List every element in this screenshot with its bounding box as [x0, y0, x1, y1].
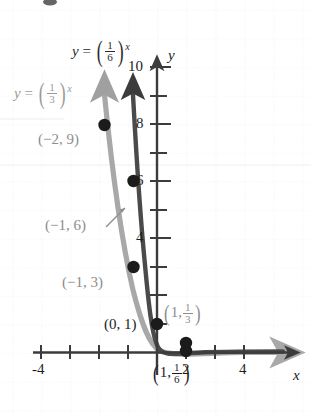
point-label-neg2-9: (−2, 9)	[38, 132, 79, 147]
eq-dark-exponent: x	[125, 41, 130, 52]
pt-1third-fraction: 13	[183, 302, 193, 326]
eq-dark-paren-open: (	[96, 38, 102, 67]
pt-1third-paren-close: )	[195, 302, 201, 325]
eq-dark-paren-close: )	[117, 38, 123, 67]
graph-canvas	[0, 0, 311, 416]
exponential-graph-figure: y = (16)x y = (13)x y x 10 8 6 4 -4 2 4 …	[0, 0, 311, 416]
pt-1sixth-paren-open: (	[153, 362, 159, 385]
pt-1third-paren-open: (	[164, 302, 170, 325]
point-0-1	[151, 318, 163, 330]
eq-dark-fraction: 16	[105, 40, 115, 64]
y-tick-label-8: 8	[136, 116, 144, 131]
point-label-0-1: (0, 1)	[104, 317, 137, 332]
point-label-neg1-3-text: −1, 3	[67, 274, 98, 290]
equation-label-one-sixth: y = (16)x	[72, 38, 130, 67]
x-tick-label-minus-4: -4	[32, 362, 45, 377]
point-label-1-one-third: ((1,1,13)	[163, 302, 201, 326]
eq-dark-equals: =	[82, 43, 90, 59]
pt-1sixth-paren-close: )	[184, 362, 190, 385]
y-tick-label-4: 4	[136, 230, 144, 245]
point-label-neg1-6: (−1, 6)	[45, 218, 86, 233]
eq-gray-lhs: y	[14, 85, 21, 101]
eq-gray-paren-open: (	[38, 80, 44, 109]
point-neg2-9	[98, 119, 110, 131]
y-axis-label: y	[168, 48, 175, 63]
x-tick-label-4: 4	[239, 362, 247, 377]
eq-gray-exponent: x	[67, 83, 72, 94]
point-label-neg1-6-text: −1, 6	[50, 217, 81, 233]
eq-gray-paren-close: )	[59, 80, 65, 109]
y-tick-label-6: 6	[136, 173, 144, 188]
point-neg1-3	[127, 261, 139, 273]
eq-gray-fraction: 13	[47, 82, 57, 106]
point-label-neg1-3: (−1, 3)	[62, 275, 103, 290]
equation-label-one-third: y = (13)x	[14, 80, 72, 109]
eq-gray-equals: =	[24, 85, 32, 101]
point-1-sixth	[180, 345, 192, 357]
point-label-1-one-sixth: ((1,1,16)	[152, 362, 190, 386]
x-axis-label: x	[293, 368, 300, 383]
pt-1sixth-fraction: 16	[172, 362, 182, 386]
point-label-neg2-9-text: −2, 9	[43, 131, 74, 147]
point-label-0-1-text: 0, 1	[109, 316, 132, 332]
y-tick-label-10: 10	[128, 59, 143, 74]
eq-dark-lhs: y	[72, 43, 79, 59]
